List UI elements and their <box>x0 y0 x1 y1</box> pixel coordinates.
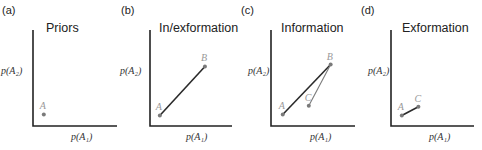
segment-c-b <box>309 65 331 106</box>
panel-d: (d) Exformation p(A₂) p(A₁) AC <box>361 4 474 143</box>
point-label-a: A <box>155 101 163 112</box>
y-axis-label: p(A₂) <box>367 65 390 77</box>
figure: (a) Priors p(A₂) p(A₁) A (b) In/exformat… <box>0 0 482 150</box>
y-axis-label: p(A₂) <box>119 65 142 77</box>
point-label-a: A <box>278 100 286 111</box>
panel-b: (b) In/exformation p(A₂) p(A₁) AB <box>119 4 238 143</box>
segment-a-b <box>283 65 331 115</box>
panel-label: (c) <box>241 4 254 16</box>
y-axis-label: p(A₂) <box>247 65 270 77</box>
panel-a: (a) Priors p(A₂) p(A₁) A <box>0 4 117 143</box>
x-axis-label: p(A₁) <box>185 131 208 143</box>
point-c <box>307 104 311 108</box>
axes <box>271 30 355 126</box>
point-a <box>42 112 46 116</box>
point-b <box>203 64 207 68</box>
panel-title: Priors <box>46 21 79 35</box>
panel-label: (b) <box>121 4 134 16</box>
point-a <box>158 113 162 117</box>
x-axis-label: p(A₁) <box>428 131 451 143</box>
panel-label: (d) <box>361 4 374 16</box>
y-axis-label: p(A₂) <box>0 65 23 77</box>
point-label-b: B <box>327 51 333 62</box>
segment-a-b <box>160 66 205 115</box>
x-axis-label: p(A₁) <box>309 131 332 143</box>
panel-title: Exformation <box>402 21 469 35</box>
x-axis-label: p(A₁) <box>70 131 93 143</box>
point-label-c: C <box>305 92 312 103</box>
point-label-b: B <box>201 52 207 63</box>
segment-a-c <box>402 107 419 116</box>
point-label-c: C <box>414 93 421 104</box>
point-b <box>329 63 333 67</box>
point-a <box>281 112 285 116</box>
point-label-a: A <box>397 101 405 112</box>
point-c <box>416 105 420 109</box>
axes <box>33 30 117 126</box>
panel-label: (a) <box>2 4 15 16</box>
panel-title: Information <box>281 21 344 35</box>
panel-title: In/exformation <box>159 21 238 35</box>
panel-c: (c) Information p(A₂) p(A₁) ABC <box>241 4 355 143</box>
point-label-a: A <box>39 100 47 111</box>
point-a <box>400 113 404 117</box>
